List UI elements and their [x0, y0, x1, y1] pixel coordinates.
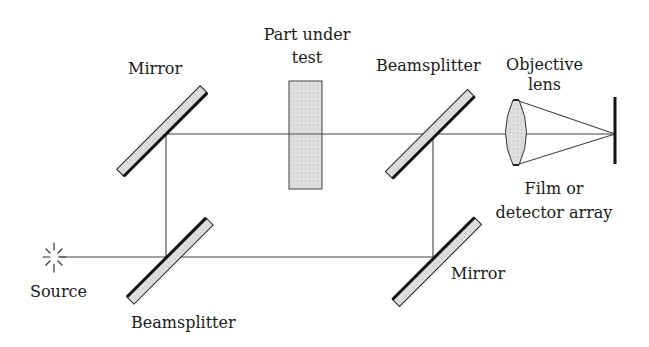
label-mirror-top: Mirror [128, 59, 182, 78]
label-beamsplitter-bottom: Beamsplitter [131, 313, 236, 332]
mirror-top-left [117, 86, 208, 177]
label-film-detector: Film or detector array [489, 179, 619, 222]
label-beamsplitter-top: Beamsplitter [376, 56, 481, 75]
label-mirror-bottom: Mirror [451, 264, 505, 283]
beam-converge-top [516, 100, 615, 134]
part-under-test [289, 81, 322, 189]
label-part-line1: Part under [252, 25, 362, 44]
beamsplitter-bottom-left [127, 218, 213, 304]
label-objective-line1: Objective [497, 55, 592, 74]
label-part-line2: test [252, 48, 362, 67]
label-film-line1: Film or [489, 179, 619, 198]
label-film-line2: detector array [489, 203, 619, 222]
beam-converge-bottom [516, 134, 615, 165]
mirror-bottom-right [392, 217, 481, 306]
label-part-under-test: Part under test [252, 25, 362, 67]
diagram-canvas: Mirror Part under test Beamsplitter Obje… [0, 0, 649, 347]
label-objective-lens: Objective lens [497, 55, 592, 94]
label-objective-line2: lens [497, 75, 592, 94]
label-source: Source [30, 282, 87, 301]
objective-lens-icon [506, 100, 527, 165]
source-starburst-icon [43, 243, 66, 272]
